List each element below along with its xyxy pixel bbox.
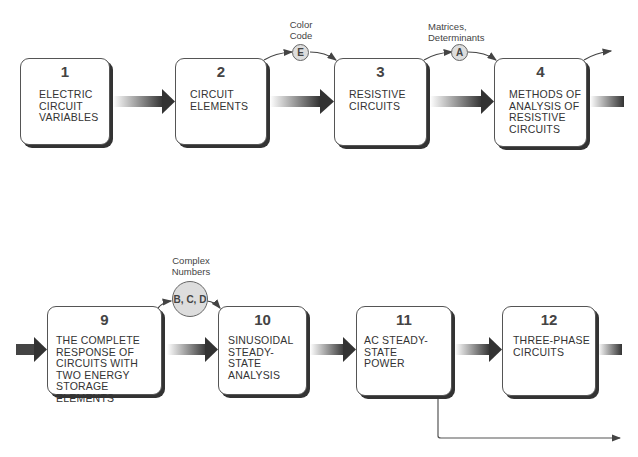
chapter-number: 2 xyxy=(176,63,266,80)
block-arrow-9-10 xyxy=(167,337,218,362)
chapter-box-9: 9 THE COMPLETE RESPONSE OF CIRCUITS WITH… xyxy=(47,306,162,395)
arrow-11-down-out xyxy=(438,397,620,438)
chapter-title: METHODS OF ANALYSIS OF RESISTIVE CIRCUIT… xyxy=(509,89,581,135)
block-arrow-11-12 xyxy=(455,337,502,362)
arrow-BCD-to-10 xyxy=(207,301,220,308)
appendix-circle-e: E xyxy=(292,44,309,61)
block-arrow-4-out xyxy=(590,96,624,107)
chapter-box-11: 11 AC STEADY-STATE POWER xyxy=(356,306,452,396)
appendix-note-color-code: Color Code xyxy=(283,19,319,41)
appendix-note-complex-numbers: Complex Numbers xyxy=(169,255,213,277)
chapter-number: 11 xyxy=(357,311,451,328)
appendix-circle-bcd: B, C, D xyxy=(172,281,208,317)
chapter-title: SINUSOIDAL STEADY-STATE ANALYSIS xyxy=(228,335,306,381)
block-arrow-2-3 xyxy=(270,89,334,114)
chapter-box-3: 3 RESISTIVE CIRCUITS xyxy=(334,58,427,146)
chapter-title: AC STEADY-STATE POWER xyxy=(364,335,451,370)
appendix-circle-a: A xyxy=(451,44,468,61)
chapter-title: CIRCUIT ELEMENTS xyxy=(190,89,248,112)
appendix-note-matrices: Matrices, Determinants xyxy=(428,21,494,43)
chapter-title: THE COMPLETE RESPONSE OF CIRCUITS WITH T… xyxy=(56,335,161,404)
chapter-number: 1 xyxy=(21,63,109,80)
chapter-number: 4 xyxy=(495,63,586,80)
chapter-box-1: 1 ELECTRIC CIRCUIT VARIABLES xyxy=(20,58,110,145)
chapter-box-2: 2 CIRCUIT ELEMENTS xyxy=(175,58,267,145)
chapter-title: ELECTRIC CIRCUIT VARIABLES xyxy=(39,89,98,124)
arrow-4-out xyxy=(584,51,611,60)
chapter-number: 12 xyxy=(503,311,595,328)
arrow-3-to-A xyxy=(424,52,452,60)
chapter-box-12: 12 THREE-PHASE CIRCUITS xyxy=(502,306,596,396)
chapter-number: 3 xyxy=(335,63,426,80)
block-arrow-1-2 xyxy=(113,89,175,114)
block-arrow-10-11 xyxy=(310,337,356,362)
chapter-number: 9 xyxy=(48,311,161,328)
block-arrow-12-out xyxy=(598,344,622,355)
arrow-2-to-E xyxy=(264,52,292,60)
chapter-box-10: 10 SINUSOIDAL STEADY-STATE ANALYSIS xyxy=(218,306,307,395)
arrow-E-to-3 xyxy=(310,52,336,60)
chapter-box-4: 4 METHODS OF ANALYSIS OF RESISTIVE CIRCU… xyxy=(494,58,587,147)
block-arrow-3-4 xyxy=(430,89,494,114)
chapter-title: THREE-PHASE CIRCUITS xyxy=(513,335,590,358)
arrow-A-to-4 xyxy=(468,52,496,60)
chapter-title: RESISTIVE CIRCUITS xyxy=(349,89,406,112)
arrow-9-to-BCD xyxy=(158,301,171,308)
chapter-number: 10 xyxy=(219,311,306,328)
block-arrow-in-9 xyxy=(16,337,47,362)
